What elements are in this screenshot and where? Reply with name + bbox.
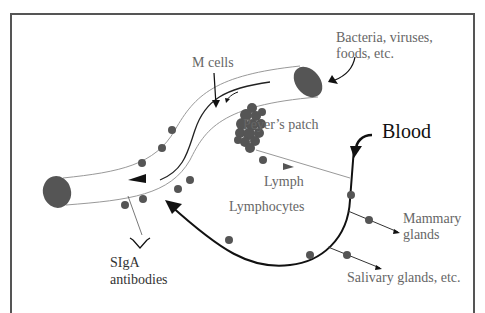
- salivary-label: Salivary glands, etc.: [347, 270, 461, 285]
- mammary-label-line2: glands: [403, 227, 440, 242]
- lymph-arrowhead: [283, 163, 294, 170]
- mammary-branch: [348, 211, 398, 232]
- blood-label: Blood: [382, 120, 431, 142]
- peyers-patch-label: Peyer’s patch: [243, 117, 319, 132]
- bacteria-label-line1: Bacteria, viruses,: [336, 30, 433, 45]
- m-cells-label: M cells: [192, 55, 234, 70]
- lymphocytes-label: Lymphocytes: [229, 199, 304, 214]
- mammary-label-line1: Mammary: [403, 211, 461, 226]
- flow-arrowhead: [128, 174, 146, 183]
- siga-antibody-icon: [130, 238, 150, 248]
- siga-line: [128, 196, 142, 235]
- intestine-end-right: [288, 61, 328, 102]
- siga-label-line2: antibodies: [110, 272, 168, 287]
- salivary-branch: [328, 247, 380, 268]
- bacteria-label-line2: foods, etc.: [336, 46, 394, 61]
- blood-return-arrowhead: [165, 200, 182, 214]
- siga-label-line1: SIgA: [110, 255, 140, 270]
- intestine-end-left: [39, 173, 74, 211]
- lymph-label: Lymph: [264, 174, 304, 189]
